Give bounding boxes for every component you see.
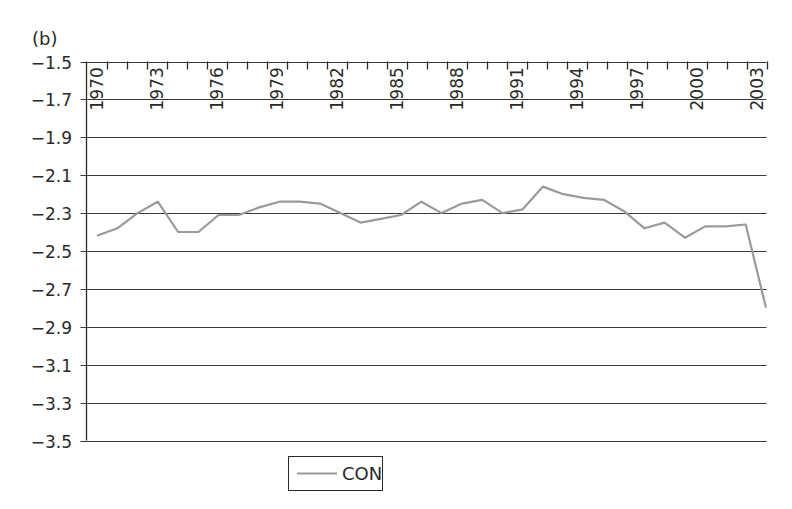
- x-tick-label: 1994: [567, 67, 587, 110]
- y-tick-label: −3.5: [31, 432, 72, 452]
- gridlines: [81, 63, 767, 442]
- x-tick-label: 1997: [627, 67, 647, 110]
- x-tick-label: 2000: [687, 67, 707, 110]
- y-tick-label: −3.1: [31, 356, 72, 376]
- x-axis: 1970197319761979198219851988199119941997…: [87, 62, 768, 111]
- x-tick-label: 1976: [207, 67, 227, 110]
- y-tick-label: −3.3: [31, 394, 72, 414]
- panel-label: (b): [32, 28, 57, 49]
- y-tick-label: −1.7: [31, 90, 72, 110]
- line-chart-svg: (b) −1.5−1.7−1.9−2.1−2.3−2.5−2.7−2.9−3.1…: [0, 0, 792, 509]
- y-tick-label: −2.7: [31, 280, 72, 300]
- y-tick-label: −2.9: [31, 318, 72, 338]
- y-tick-label: −2.1: [31, 166, 72, 186]
- y-tick-label: −2.3: [31, 204, 72, 224]
- x-tick-label: 1970: [87, 67, 107, 110]
- y-tick-label: −2.5: [31, 242, 72, 262]
- y-tick-label: −1.9: [31, 128, 72, 148]
- x-tick-label: 1991: [507, 67, 527, 110]
- y-tick-label: −1.5: [31, 53, 72, 73]
- x-tick-label: 2003: [747, 67, 767, 110]
- legend-label-con: CON: [342, 463, 382, 484]
- y-axis: −1.5−1.7−1.9−2.1−2.3−2.5−2.7−2.9−3.1−3.3…: [31, 53, 87, 452]
- x-tick-label: 1973: [147, 67, 167, 110]
- x-tick-label: 1979: [267, 67, 287, 110]
- x-tick-label: 1988: [447, 67, 467, 110]
- legend: CON: [289, 457, 383, 491]
- x-tick-label: 1985: [387, 67, 407, 110]
- chart: (b) −1.5−1.7−1.9−2.1−2.3−2.5−2.7−2.9−3.1…: [0, 0, 792, 509]
- x-tick-label: 1982: [327, 67, 347, 110]
